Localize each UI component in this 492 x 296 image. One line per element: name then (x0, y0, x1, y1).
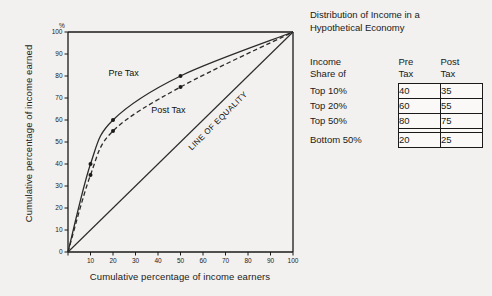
table-caption: Distribution of Income in a Hypothetical… (310, 8, 488, 34)
svg-text:100: 100 (52, 28, 63, 35)
y-axis-label: Cumulative percentage of income earned (23, 29, 34, 239)
row-label-top-10: Top 10% (310, 84, 399, 99)
plot-svg: 0102030405060708090100 10203040506070809… (0, 0, 300, 296)
svg-text:0: 0 (59, 248, 63, 255)
svg-text:50: 50 (177, 257, 185, 264)
row-header-line-2: Share of (310, 68, 399, 80)
cell-pre-tax-top-50: 80 (399, 114, 441, 129)
col-header-pre-line-1: Pre (399, 56, 441, 68)
income-share-table-wrap: Income Pre Post Share of Tax Tax (310, 56, 490, 148)
cell-pre-tax-top-10: 40 (399, 84, 441, 99)
annotation-pre-tax: Pre Tax (109, 68, 140, 78)
table-header-row-2: Share of Tax Tax (310, 68, 483, 80)
y-axis-unit: % (59, 22, 65, 29)
svg-text:10: 10 (87, 257, 95, 264)
series-line-of-equality (68, 32, 293, 252)
col-header-post-line-1: Post (441, 56, 483, 68)
caption-line-1: Distribution of Income in a (310, 8, 488, 21)
svg-text:40: 40 (55, 160, 63, 167)
svg-text:30: 30 (55, 182, 63, 189)
lorenz-curve-chart: 0102030405060708090100 10203040506070809… (0, 0, 300, 296)
table-header-row-1: Income Pre Post (310, 56, 483, 68)
cell-post-tax-top-50: 75 (441, 114, 483, 129)
x-axis-label: Cumulative percentage of income earners (60, 271, 300, 282)
svg-text:60: 60 (199, 257, 207, 264)
cell-post-tax-bottom-50: 25 (441, 133, 483, 148)
table-row: Top 20% 60 55 (310, 99, 483, 114)
cell-pre-tax-bottom-50: 20 (399, 133, 441, 148)
row-label-top-50: Top 50% (310, 114, 399, 129)
table-row: Bottom 50% 20 25 (310, 133, 483, 148)
col-header-pre-line-2: Tax (399, 68, 441, 80)
row-header-line-1: Income (310, 56, 399, 68)
markers-pre-tax (89, 74, 183, 166)
caption-line-2: Hypothetical Economy (310, 21, 488, 34)
svg-text:30: 30 (132, 257, 140, 264)
svg-text:60: 60 (55, 116, 63, 123)
svg-text:90: 90 (267, 257, 275, 264)
svg-text:100: 100 (288, 257, 299, 264)
annotation-line-of-equality: LINE OF EQUALITY (187, 90, 250, 153)
income-share-table: Income Pre Post Share of Tax Tax (310, 56, 483, 148)
side-table-block: Distribution of Income in a Hypothetical… (306, 0, 492, 296)
x-axis-ticks: 102030405060708090100 (68, 252, 299, 264)
svg-text:70: 70 (55, 94, 63, 101)
svg-text:70: 70 (222, 257, 230, 264)
col-header-post-line-2: Tax (441, 68, 483, 80)
annotation-post-tax: Post Tax (151, 105, 186, 115)
cell-pre-tax-top-20: 60 (399, 99, 441, 114)
figure-root: 0102030405060708090100 10203040506070809… (0, 0, 492, 296)
svg-text:10: 10 (55, 226, 63, 233)
svg-text:20: 20 (109, 257, 117, 264)
row-label-bottom-50: Bottom 50% (310, 133, 399, 148)
table-row: Top 50% 80 75 (310, 114, 483, 129)
row-label-top-20: Top 20% (310, 99, 399, 114)
cell-post-tax-top-20: 55 (441, 99, 483, 114)
markers-post-tax (89, 85, 183, 177)
y-axis-ticks: 0102030405060708090100 (52, 28, 68, 255)
table-row: Top 10% 40 35 (310, 84, 483, 99)
svg-text:50: 50 (55, 138, 63, 145)
svg-text:20: 20 (55, 204, 63, 211)
svg-text:40: 40 (154, 257, 162, 264)
svg-text:80: 80 (244, 257, 252, 264)
svg-text:80: 80 (55, 72, 63, 79)
cell-post-tax-top-10: 35 (441, 84, 483, 99)
svg-text:90: 90 (55, 50, 63, 57)
